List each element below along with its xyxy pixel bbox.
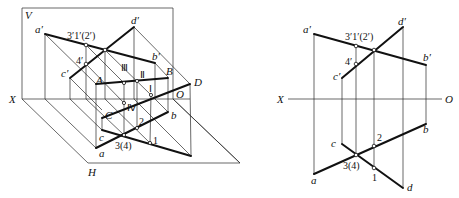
label-1-right: 1 bbox=[372, 172, 377, 183]
point-3prime-right bbox=[354, 44, 358, 48]
label-b1-right: b′ bbox=[423, 51, 432, 63]
label-b-left: b bbox=[171, 109, 177, 121]
label-3-4-left: 3(4) bbox=[115, 140, 132, 152]
label-h-plane: H bbox=[87, 166, 97, 178]
vert-1 bbox=[150, 95, 151, 143]
label-a-right: a bbox=[311, 174, 317, 186]
label-c-right: c bbox=[331, 137, 336, 149]
line-AB bbox=[96, 78, 168, 84]
label-4prime-right: 4′ bbox=[345, 56, 352, 67]
point-4prime-left bbox=[84, 62, 88, 66]
label-a1-left: a′ bbox=[35, 23, 44, 35]
label-2-left: 2 bbox=[139, 116, 144, 127]
label-roman-II: Ⅱ bbox=[140, 69, 145, 80]
line-ab-right bbox=[314, 124, 426, 174]
point-1-right bbox=[372, 166, 376, 170]
label-d1-left: d′ bbox=[131, 14, 140, 26]
label-v-plane: V bbox=[25, 9, 33, 21]
point-II bbox=[135, 79, 138, 82]
label-o-left: O bbox=[176, 88, 184, 100]
label-4prime-left: 4′ bbox=[76, 55, 83, 66]
label-a1-right: a′ bbox=[303, 23, 312, 35]
label-roman-I: Ⅰ bbox=[149, 83, 152, 94]
label-o-right: O bbox=[445, 93, 453, 105]
point-1-left bbox=[148, 141, 151, 144]
label-d-right: d bbox=[407, 181, 413, 193]
point-3-4-right bbox=[354, 153, 358, 157]
label-B: B bbox=[166, 65, 173, 77]
label-3-4-right: 3(4) bbox=[343, 160, 360, 172]
label-c-left: c bbox=[99, 131, 104, 143]
label-c1-left: c′ bbox=[61, 67, 69, 79]
label-3-1-2-prime-left: 3′1′(2′) bbox=[67, 30, 95, 42]
label-3-1-2-prime-right: 3′1′(2′) bbox=[345, 31, 373, 43]
vert-D-d bbox=[190, 84, 191, 156]
label-a-left: a bbox=[99, 147, 105, 159]
label-roman-IV: Ⅳ bbox=[127, 102, 137, 113]
left-axonometric-view: V H X O a′ b′ c′ d′ 3′1′(2′) 4′ A B C D … bbox=[8, 8, 240, 178]
label-d1-right: d′ bbox=[398, 15, 407, 27]
h-ray-c bbox=[70, 99, 102, 130]
right-orthographic-view: X O a′ b′ c′ d′ 3′1′(2′) 4′ a b c d 3(4)… bbox=[276, 15, 453, 193]
label-C: C bbox=[105, 109, 113, 121]
point-1prime-right bbox=[372, 48, 376, 52]
point-1prime-left bbox=[103, 48, 107, 52]
label-b1-left: b′ bbox=[152, 50, 161, 62]
label-x-left: X bbox=[8, 93, 17, 105]
label-x-right: X bbox=[276, 93, 285, 105]
label-c1-right: c′ bbox=[333, 70, 341, 82]
point-2-right bbox=[372, 144, 376, 148]
point-3-4-left bbox=[122, 133, 125, 136]
label-A: A bbox=[95, 74, 103, 86]
point-4prime-right bbox=[354, 62, 358, 66]
point-3prime-left bbox=[84, 43, 88, 47]
h-ray-a bbox=[45, 99, 96, 148]
label-1-left: 1 bbox=[153, 135, 158, 146]
label-2-right: 2 bbox=[377, 132, 382, 143]
point-IV bbox=[122, 101, 125, 104]
label-b-right: b bbox=[423, 123, 429, 135]
label-D: D bbox=[193, 76, 202, 88]
crossing-lines-diagram: V H X O a′ b′ c′ d′ 3′1′(2′) 4′ A B C D … bbox=[0, 0, 459, 198]
label-roman-III: Ⅲ bbox=[121, 62, 128, 73]
point-III bbox=[122, 81, 125, 84]
h-ray-b bbox=[155, 99, 168, 112]
